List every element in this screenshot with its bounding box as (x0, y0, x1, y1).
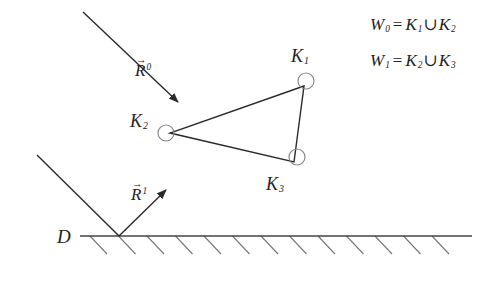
hatch-mark (404, 236, 421, 254)
diagram-drawing (0, 0, 489, 285)
eq0-lhs: W (370, 15, 384, 34)
surface-label: D (57, 227, 71, 246)
hatch-mark (318, 236, 335, 254)
eq0-lhs-sub: 0 (385, 24, 390, 34)
k3-circle (289, 149, 305, 165)
ground-hatch-marks (90, 236, 449, 254)
k2-label: K2 (130, 112, 148, 131)
eq0-a: K (405, 15, 416, 34)
eq0-b: K (439, 15, 450, 34)
eq1-a-sub: 2 (418, 60, 423, 70)
eq1-lhs-sub: 1 (385, 60, 390, 70)
equation-w1: W1=K2∪K3 (370, 52, 456, 71)
incoming-ray-line (37, 155, 119, 236)
k3-sub: 3 (279, 183, 284, 194)
k2-sub: 2 (143, 120, 148, 131)
vector-arrow-icon: → (136, 55, 146, 65)
incident-vector-label: →R0 (135, 62, 151, 79)
hatch-mark (347, 236, 364, 254)
hatch-mark (119, 236, 136, 254)
hatch-mark (204, 236, 221, 254)
k3-base: K (266, 174, 278, 194)
k1-sub: 1 (304, 55, 309, 66)
hatch-mark (290, 236, 307, 254)
diagram-canvas: W0=K1∪K2 W1=K2∪K3 →R0 →R1 K1 K2 K3 D (0, 0, 489, 285)
vector-arrow-icon: → (132, 179, 142, 189)
incident-vector-arrow (83, 12, 178, 102)
eq0-b-sub: 2 (451, 24, 456, 34)
eq1-equals: = (393, 51, 403, 70)
hatch-mark (432, 236, 449, 254)
eq1-a: K (405, 51, 416, 70)
hatch-mark (375, 236, 392, 254)
hatch-mark (261, 236, 278, 254)
eq1-b: K (439, 51, 450, 70)
hatch-mark (90, 236, 107, 254)
equation-w0: W0=K1∪K2 (370, 16, 456, 35)
eq0-union: ∪ (423, 15, 437, 34)
hatch-mark (147, 236, 164, 254)
eq1-lhs: W (370, 51, 384, 70)
reflected-vector-sup: 1 (142, 186, 147, 196)
eq0-a-sub: 1 (418, 24, 423, 34)
eq1-b-sub: 3 (451, 60, 456, 70)
triangle-body (170, 86, 304, 162)
k3-label: K3 (266, 175, 284, 194)
eq1-union: ∪ (423, 51, 437, 70)
reflected-vector-label: →R1 (131, 186, 147, 203)
k1-circle (298, 73, 314, 89)
incident-vector-sup: 0 (146, 62, 151, 72)
k1-base: K (291, 46, 303, 66)
k1-label: K1 (291, 47, 309, 66)
hatch-mark (176, 236, 193, 254)
k2-base: K (130, 111, 142, 131)
hatch-mark (233, 236, 250, 254)
eq0-equals: = (393, 15, 403, 34)
